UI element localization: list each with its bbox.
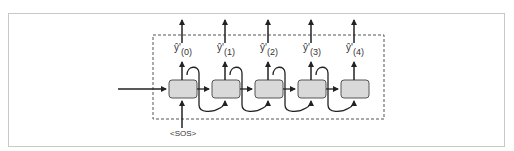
top-output-arrows: [182, 20, 354, 43]
output-label-2: ŷ'(2): [260, 42, 278, 53]
rnn-cell-4: [341, 80, 369, 98]
rnn-cell-1: [212, 80, 240, 98]
rnn-cell-0: [169, 80, 197, 98]
sos-token-label: <SOS>: [170, 129, 196, 138]
output-label-4: ŷ'(4): [346, 42, 364, 53]
rnn-cell-3: [298, 80, 326, 98]
rnn-decoder-diagram: [0, 0, 514, 151]
output-label-1: ŷ'(1): [217, 42, 235, 53]
rnn-cell-2: [255, 80, 283, 98]
output-label-0: ŷ'(0): [174, 42, 192, 53]
output-label-3: ŷ'(3): [303, 42, 321, 53]
